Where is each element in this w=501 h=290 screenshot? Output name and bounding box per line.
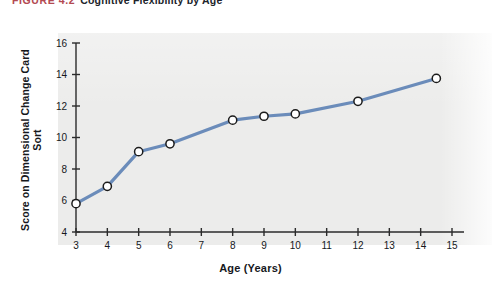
data-point-marker [135,148,143,156]
y-tick-label: 8 [61,164,67,175]
data-point-marker [260,112,268,120]
data-point-marker [432,74,440,82]
data-point-marker [72,200,80,208]
y-tick-label: 14 [56,69,68,80]
series-line [76,78,436,203]
x-tick-label: 9 [261,240,267,251]
data-point-marker [354,97,362,105]
data-series [72,74,441,207]
x-tick-label: 4 [105,240,111,251]
chart-svg: 46810121416 3456789101112131415 [0,0,501,290]
data-point-marker [291,110,299,118]
x-tick-label: 3 [73,240,79,251]
x-tick-label: 8 [230,240,236,251]
x-tick-label: 15 [446,240,458,251]
y-tick-label: 16 [56,38,68,49]
y-tick-label: 10 [56,132,68,143]
x-tick-label: 12 [352,240,364,251]
x-tick-label: 6 [167,240,173,251]
data-point-marker [229,116,237,124]
y-tick-label: 6 [61,195,67,206]
y-tick-label: 4 [61,227,67,238]
y-tick-label: 12 [56,101,68,112]
x-axis-title: Age (Years) [0,262,501,274]
line-chart: 46810121416 3456789101112131415 Score on… [0,0,501,290]
x-tick-label: 10 [290,240,302,251]
x-tick-label: 11 [321,240,332,251]
data-point-marker [103,182,111,190]
y-axis-title: Score on Dimensional Change Card Sort [19,40,43,240]
x-tick-label: 14 [415,240,427,251]
x-axis: 3456789101112131415 [73,228,464,251]
x-tick-label: 13 [384,240,396,251]
x-tick-label: 7 [199,240,205,251]
data-point-marker [166,140,174,148]
x-tick-label: 5 [136,240,142,251]
